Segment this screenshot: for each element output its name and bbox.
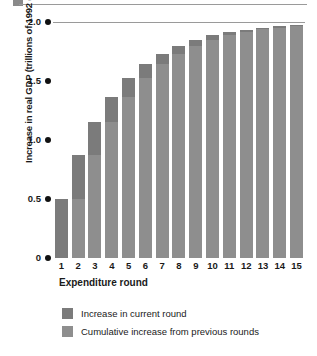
bar-series-group <box>53 22 305 258</box>
bar-segment-cumulative <box>240 32 253 258</box>
x-tick-label: 15 <box>288 260 305 274</box>
bar-column <box>53 22 70 258</box>
x-tick-label: 13 <box>255 260 272 274</box>
bar-segment-cumulative <box>273 28 286 258</box>
bar-column <box>171 22 188 258</box>
bar-segment-current-round <box>105 97 118 122</box>
stacked-bar <box>156 54 169 258</box>
legend-swatch <box>62 326 73 337</box>
legend-item: Increase in current round <box>62 308 312 319</box>
stacked-bar <box>189 40 202 258</box>
bar-segment-cumulative <box>139 78 152 258</box>
y-tick-label: 0 <box>36 252 41 263</box>
y-axis-title: Increase in real GDP (trillions of 1992 … <box>23 0 34 182</box>
x-tick-label: 10 <box>204 260 221 274</box>
x-tick-label: 2 <box>70 260 87 274</box>
bar-column <box>288 22 305 258</box>
bar-column <box>255 22 272 258</box>
stacked-bar <box>172 46 185 258</box>
legend-swatch <box>62 308 73 319</box>
bar-segment-current-round <box>55 199 68 258</box>
y-tick-marker <box>45 78 51 84</box>
multiplier-bar-chart: Increase in real GDP (trillions of 1992 … <box>0 0 317 356</box>
y-tick-label: 1.0 <box>28 134 41 145</box>
stacked-bar <box>273 26 286 258</box>
bar-column <box>221 22 238 258</box>
x-tick-label: 11 <box>221 260 238 274</box>
bar-segment-cumulative <box>223 35 236 258</box>
bar-column <box>154 22 171 258</box>
stacked-bar <box>240 30 253 258</box>
bar-column <box>137 22 154 258</box>
stacked-bar <box>223 32 236 258</box>
y-tick-marker <box>45 255 51 261</box>
stacked-bar <box>206 35 219 258</box>
x-axis-ticks: 123456789101112131415 <box>53 260 305 274</box>
x-tick-label: 9 <box>187 260 204 274</box>
bar-segment-cumulative <box>156 64 169 258</box>
bar-segment-current-round <box>139 64 152 78</box>
x-axis-title: Expenditure round <box>53 277 311 288</box>
stacked-bar <box>256 28 269 258</box>
stacked-bar <box>105 97 118 258</box>
x-tick-label: 8 <box>171 260 188 274</box>
bar-column <box>87 22 104 258</box>
bar-column <box>70 22 87 258</box>
bar-segment-current-round <box>122 78 135 97</box>
bar-segment-cumulative <box>256 29 269 258</box>
stacked-bar <box>122 78 135 258</box>
x-tick-label: 4 <box>103 260 120 274</box>
x-tick-label: 14 <box>271 260 288 274</box>
bar-segment-cumulative <box>122 97 135 258</box>
y-tick-marker <box>45 137 51 143</box>
bar-column <box>120 22 137 258</box>
bar-segment-current-round <box>88 122 101 155</box>
bar-segment-cumulative <box>88 155 101 258</box>
stacked-bar <box>290 25 303 258</box>
bar-segment-cumulative <box>206 40 219 258</box>
bar-segment-cumulative <box>105 122 118 258</box>
x-tick-label: 1 <box>53 260 70 274</box>
bar-segment-cumulative <box>189 46 202 258</box>
stacked-bar <box>139 64 152 258</box>
legend-label: Increase in current round <box>81 308 187 319</box>
stacked-bar <box>88 122 101 258</box>
bar-segment-cumulative <box>172 54 185 258</box>
y-tick-label: 1.5 <box>28 75 41 86</box>
bar-segment-cumulative <box>72 199 85 258</box>
y-tick-marker <box>45 19 51 25</box>
stacked-bar <box>72 155 85 258</box>
stacked-bar <box>55 199 68 258</box>
bar-column <box>238 22 255 258</box>
bar-column <box>271 22 288 258</box>
bar-segment-current-round <box>156 54 169 65</box>
legend-label: Cumulative increase from previous rounds <box>81 326 259 337</box>
bar-column <box>204 22 221 258</box>
y-tick-marker <box>45 196 51 202</box>
bar-segment-current-round <box>72 155 85 199</box>
bar-column <box>187 22 204 258</box>
legend-item: Cumulative increase from previous rounds <box>62 326 312 337</box>
plot-area: 00.51.01.52.0 <box>53 22 305 258</box>
x-tick-label: 6 <box>137 260 154 274</box>
chart-legend: Increase in current roundCumulative incr… <box>62 308 312 344</box>
y-tick-label: 2.0 <box>28 16 41 27</box>
x-tick-label: 3 <box>87 260 104 274</box>
x-tick-label: 12 <box>238 260 255 274</box>
bar-column <box>103 22 120 258</box>
x-tick-label: 7 <box>154 260 171 274</box>
y-tick-label: 0.5 <box>28 193 41 204</box>
bar-segment-current-round <box>172 46 185 54</box>
x-tick-label: 5 <box>120 260 137 274</box>
bar-segment-cumulative <box>290 26 303 258</box>
